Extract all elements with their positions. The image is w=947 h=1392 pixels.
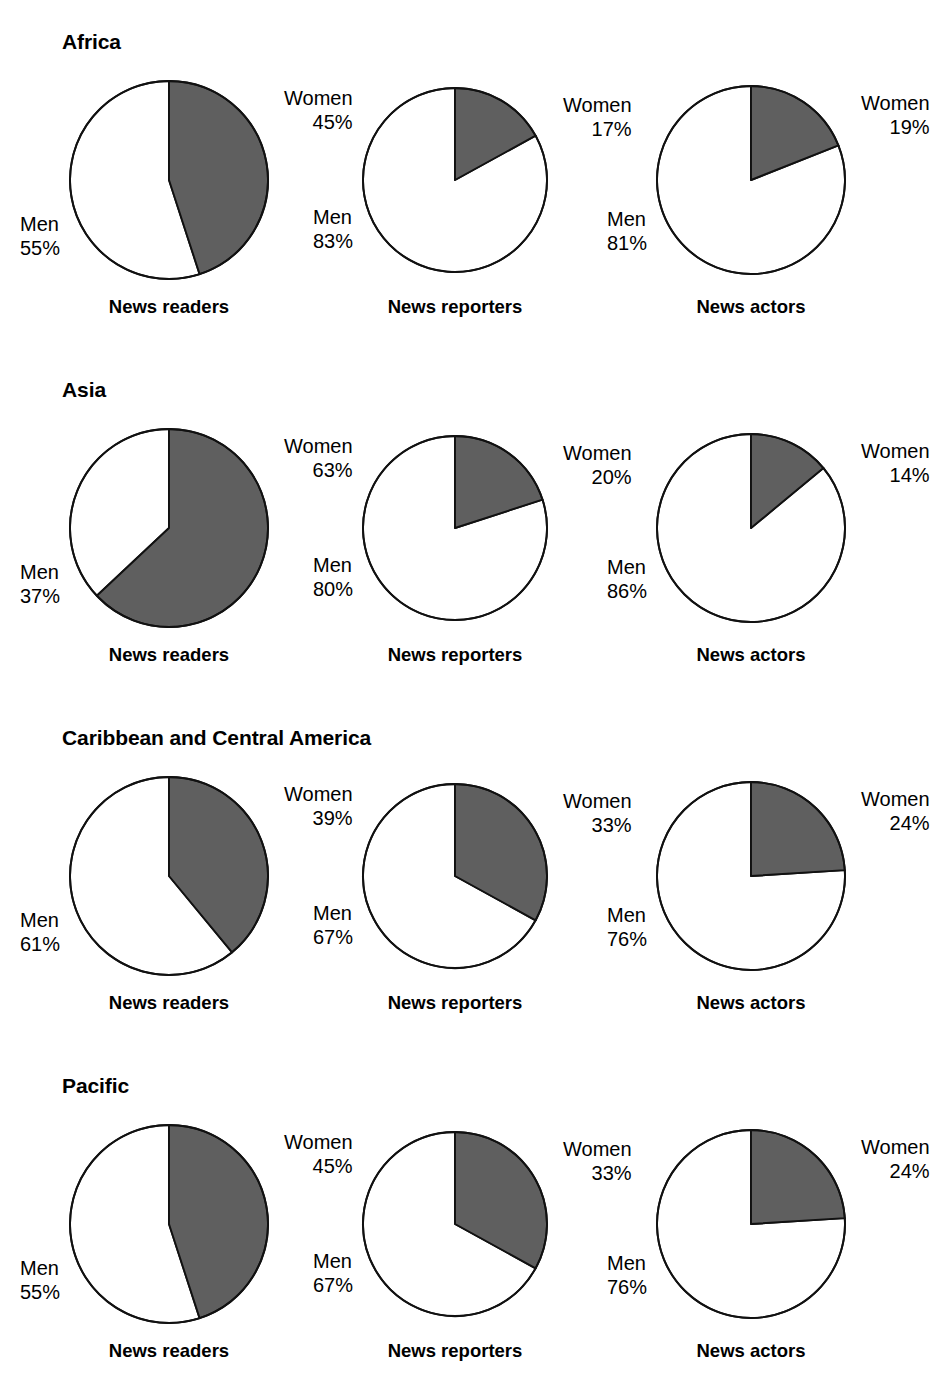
- pie-slice-men: [657, 1130, 845, 1318]
- men-label: Men76%: [607, 1252, 647, 1299]
- region-block: AfricaWomen45%Men55%News readersWomen17%…: [0, 0, 947, 348]
- men-label-text: Men: [607, 904, 647, 928]
- pie-slice-women: [751, 434, 823, 528]
- women-label-text: Women: [861, 788, 930, 812]
- pie-slice-men: [657, 86, 845, 274]
- women-label: Women19%: [861, 92, 930, 139]
- men-label-text: Men: [607, 1252, 647, 1276]
- women-label: Women14%: [861, 440, 930, 487]
- women-label-value: 14%: [861, 464, 930, 488]
- pie-chart-cell: Women19%Men81%News actors: [0, 0, 947, 348]
- women-label-value: 24%: [861, 1160, 930, 1184]
- men-label: Men81%: [607, 208, 647, 255]
- region-block: Caribbean and Central AmericaWomen39%Men…: [0, 696, 947, 1044]
- pie-slice-women: [751, 782, 845, 876]
- men-label: Men86%: [607, 556, 647, 603]
- women-label: Women24%: [861, 1136, 930, 1183]
- pie-chart-cell: Women14%Men86%News actors: [0, 348, 947, 696]
- men-label: Men76%: [607, 904, 647, 951]
- women-label-text: Women: [861, 440, 930, 464]
- pie-slice-men: [657, 782, 845, 970]
- men-label-text: Men: [607, 556, 647, 580]
- pie-outline-circle: [657, 434, 845, 622]
- chart-caption: News actors: [621, 1340, 881, 1362]
- pie-slice-women: [751, 1130, 845, 1224]
- men-label-value: 76%: [607, 1276, 647, 1300]
- chart-caption: News actors: [621, 992, 881, 1014]
- women-label-text: Women: [861, 1136, 930, 1160]
- region-block: AsiaWomen63%Men37%News readersWomen20%Me…: [0, 348, 947, 696]
- women-label-value: 19%: [861, 116, 930, 140]
- women-label: Women24%: [861, 788, 930, 835]
- pie-outline-circle: [657, 86, 845, 274]
- chart-caption: News actors: [621, 296, 881, 318]
- men-label-text: Men: [607, 208, 647, 232]
- pie-chart-cell: Women24%Men76%News actors: [0, 696, 947, 1044]
- men-label-value: 81%: [607, 232, 647, 256]
- women-label-text: Women: [861, 92, 930, 116]
- men-label-value: 76%: [607, 928, 647, 952]
- pie-slice-men: [657, 434, 845, 622]
- pie-slice-women: [751, 86, 838, 180]
- region-block: PacificWomen45%Men55%News readersWomen33…: [0, 1044, 947, 1392]
- pie-chart-cell: Women24%Men76%News actors: [0, 1044, 947, 1392]
- chart-caption: News actors: [621, 644, 881, 666]
- women-label-value: 24%: [861, 812, 930, 836]
- pie-outline-circle: [657, 1130, 845, 1318]
- men-label-value: 86%: [607, 580, 647, 604]
- pie-outline-circle: [657, 782, 845, 970]
